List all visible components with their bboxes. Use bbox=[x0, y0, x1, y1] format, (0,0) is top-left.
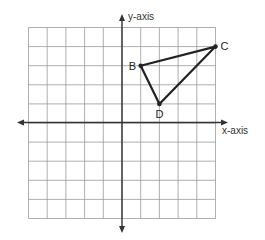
point-b bbox=[138, 63, 143, 68]
triangle-bcd: BCD bbox=[129, 40, 229, 120]
x-axis-label: x-axis bbox=[222, 125, 248, 136]
y-axis-down-arrow-icon bbox=[119, 226, 125, 233]
point-c bbox=[213, 44, 218, 49]
y-axis-up-arrow-icon bbox=[119, 14, 125, 21]
coordinate-plane: y-axis x-axis BCD bbox=[0, 0, 265, 240]
point-label-b: B bbox=[129, 60, 136, 72]
point-label-d: D bbox=[155, 108, 163, 120]
point-label-c: C bbox=[221, 40, 229, 52]
x-axis-left-arrow-icon bbox=[17, 120, 24, 126]
point-d bbox=[157, 102, 162, 107]
y-axis-label: y-axis bbox=[128, 11, 154, 22]
